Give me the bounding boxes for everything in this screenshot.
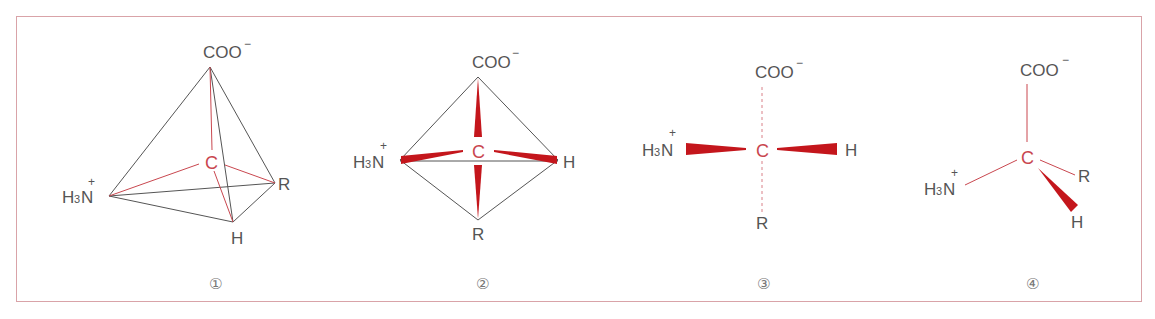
bond-c-n [965, 160, 1017, 185]
bond-c-r [225, 165, 275, 183]
amine-subscript: 3 [74, 193, 80, 205]
charge-minus: − [244, 37, 251, 51]
charge-plus: + [669, 126, 676, 140]
charge-minus: − [512, 46, 519, 60]
bond-c-h [214, 171, 233, 222]
edge-top-n [109, 67, 210, 196]
amine-n: N [661, 141, 673, 160]
amine-h: H [642, 141, 654, 160]
center-carbon: C [472, 142, 485, 162]
charge-plus: + [380, 139, 387, 153]
top-group-label: COO [1020, 61, 1059, 80]
charge-plus: + [951, 166, 958, 180]
caption-1: ① [209, 275, 222, 293]
amine-h: H [353, 153, 365, 172]
edge-n-r [109, 183, 275, 196]
bottom-group-label: H [231, 229, 243, 248]
diagram-3-wedge-dash: COO − C H R H 3 N + ③ [642, 56, 857, 293]
edge-r-h [233, 183, 275, 222]
amine-n: N [81, 188, 93, 207]
amine-h: H [62, 188, 74, 207]
amine-subscript: 3 [365, 158, 371, 170]
top-group-label: COO [472, 53, 511, 72]
amino-acid-stereo-figure: COO − C R H H 3 N + ① COO − C H R H 3 N … [0, 0, 1155, 319]
amine-subscript: 3 [654, 146, 660, 158]
amine-subscript: 3 [936, 185, 942, 197]
charge-minus: − [1062, 53, 1069, 67]
wedge-left [686, 143, 746, 155]
edge-top-r [210, 67, 275, 183]
diagram-1-tetrahedron: COO − C R H H 3 N + ① [62, 37, 290, 293]
diagram-4-wedge-line: COO − C R H H 3 N + ④ [924, 53, 1090, 293]
charge-plus: + [88, 175, 95, 189]
top-group-label: COO [203, 43, 242, 62]
bond-c-n [109, 164, 199, 196]
right-group-label: R [278, 175, 290, 194]
center-carbon: C [205, 153, 218, 173]
right-group-label: H [563, 153, 575, 172]
wedge-right [494, 150, 557, 164]
amine-n: N [943, 180, 955, 199]
wedge-h [1038, 168, 1078, 212]
bottom-group-label: H [1071, 213, 1083, 232]
top-group-label: COO [755, 63, 794, 82]
right-group-label: H [845, 141, 857, 160]
center-carbon: C [756, 141, 769, 161]
bottom-group-label: R [472, 225, 484, 244]
center-carbon: C [1021, 148, 1034, 168]
wedge-top [474, 78, 482, 137]
caption-3: ③ [757, 275, 770, 293]
bond-c-r [1040, 160, 1075, 175]
charge-minus: − [796, 56, 803, 70]
caption-2: ② [476, 275, 489, 293]
wedge-left [401, 150, 463, 164]
amine-h: H [924, 180, 936, 199]
bottom-group-label: R [756, 214, 768, 233]
right-group-label: R [1078, 167, 1090, 186]
wedge-right [777, 143, 837, 155]
wedge-bottom [474, 165, 482, 219]
amine-n: N [372, 153, 384, 172]
edge-top-h [210, 67, 233, 222]
caption-4: ④ [1026, 275, 1039, 293]
diagram-2-wedge-diamond: COO − C H R H 3 N + ② [353, 46, 575, 293]
edge-n-h [109, 196, 233, 222]
